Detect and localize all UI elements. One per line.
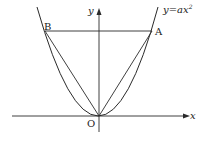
- segment-oa: [99, 31, 152, 116]
- curve-equation-exponent: 2: [188, 3, 193, 10]
- curve-equation-text: y=ax: [162, 4, 189, 15]
- point-b-label: B: [44, 21, 51, 32]
- x-axis-arrow-icon: [183, 114, 190, 119]
- parabola-diagram: B A O x y y=ax2: [0, 0, 204, 144]
- segment-ob: [45, 31, 99, 116]
- origin-label: O: [87, 118, 95, 129]
- parabola-curve: [37, 7, 158, 116]
- point-a-label: A: [154, 26, 163, 37]
- curve-equation-label: y=ax2: [162, 3, 193, 15]
- y-axis-label: y: [87, 5, 94, 16]
- y-axis-arrow-icon: [97, 8, 102, 15]
- x-axis-label: x: [190, 110, 196, 121]
